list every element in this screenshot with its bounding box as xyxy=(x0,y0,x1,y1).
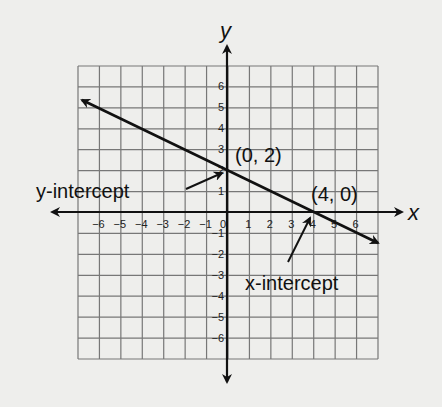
graphed-line xyxy=(80,102,200,225)
tick-label: 4 xyxy=(218,122,224,134)
tick-label: −6 xyxy=(92,218,105,230)
tick-label: 6 xyxy=(218,80,224,92)
y-intercept-arrow xyxy=(186,173,222,189)
tick-label: −6 xyxy=(211,332,224,344)
tick-label: −5 xyxy=(211,311,224,323)
tick-label: 3 xyxy=(218,143,224,155)
tick-label: 1 xyxy=(218,185,224,197)
tick-label: −2 xyxy=(211,248,224,260)
tick-label: −1 xyxy=(199,218,212,230)
tick-label: −2 xyxy=(178,218,191,230)
y-intercept-label: y-intercept xyxy=(36,180,130,202)
graphed-line-left xyxy=(82,100,227,170)
tick-label: 6 xyxy=(353,218,359,230)
tick-label: −3 xyxy=(211,269,224,281)
tick-label: −4 xyxy=(211,290,224,302)
tick-label: 2 xyxy=(267,218,273,230)
tick-label: 5 xyxy=(218,101,224,113)
coordinate-plane: −6−5−4−3−2−10123456654321−1−2−3−4−5−6 x … xyxy=(0,0,442,407)
x-axis-label: x xyxy=(407,200,420,225)
tick-label: 3 xyxy=(288,218,294,230)
tick-label: −3 xyxy=(156,218,169,230)
tick-label: 4 xyxy=(310,218,316,230)
y-axis-label: y xyxy=(218,18,233,43)
tick-label: 1 xyxy=(245,218,251,230)
tick-label: −5 xyxy=(114,218,127,230)
point-label-x-intercept: (4, 0) xyxy=(311,183,358,205)
tick-label: −4 xyxy=(135,218,148,230)
tick-label: −1 xyxy=(211,227,224,239)
x-intercept-label: x-intercept xyxy=(245,272,339,294)
point-label-y-intercept: (0, 2) xyxy=(235,144,282,166)
